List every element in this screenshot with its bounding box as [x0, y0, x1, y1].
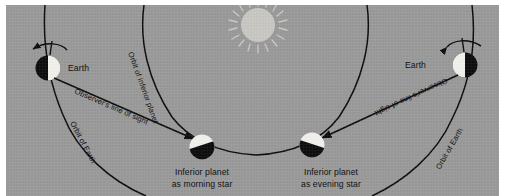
orbit-of-earth-arc-right [372, 5, 473, 196]
diagram-plate: Earth Earth Observer's line of sight Obs… [6, 5, 499, 196]
earth-left [33, 41, 67, 81]
line-of-sight-left-label: Observer's line of sight [73, 87, 150, 127]
sun [229, 5, 287, 53]
morning-star-label-line2: as morning star [172, 179, 233, 189]
earth-right-rotation-arrow [447, 41, 481, 47]
orbit-of-earth-left-label: Orbit of Earth [68, 120, 98, 165]
orbit-of-earth-right-label: Orbit of Earth [434, 126, 465, 171]
inferior-planet-morning-star [184, 135, 220, 166]
sun-disc [241, 8, 275, 42]
evening-star-label-line2: as evening star [301, 179, 361, 189]
earth-left-label: Earth [68, 63, 89, 73]
earth-left-rotation-arrow [33, 44, 67, 50]
earth-right-label: Earth [405, 60, 426, 70]
morning-star-label-line1: Inferior planet [175, 167, 230, 177]
line-of-sight-right-label: Observer's line of sight [372, 76, 448, 118]
astronomy-diagram-figure: Earth Earth Observer's line of sight Obs… [0, 0, 505, 196]
evening-star-label-line1: Inferior planet [304, 167, 359, 177]
earth-right [447, 38, 481, 78]
diagram-canvas: Earth Earth Observer's line of sight Obs… [6, 5, 499, 196]
